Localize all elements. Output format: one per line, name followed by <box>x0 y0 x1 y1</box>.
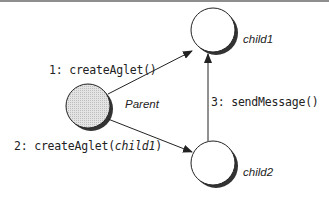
diagram-canvas: Parent child1 child2 1: createAglet() 2:… <box>0 0 329 202</box>
edge-label-1-suffix: ) <box>150 63 157 77</box>
node-label-parent: Parent <box>125 98 159 110</box>
edge-label-2-suffix: ) <box>155 139 162 153</box>
edge-label-3-suffix: ) <box>312 95 319 109</box>
node-label-child2: child2 <box>243 166 273 178</box>
edge-label-1: 1: createAglet() <box>49 63 157 77</box>
child1-circle <box>191 8 235 52</box>
edge-label-3: 3: sendMessage() <box>211 95 319 109</box>
edge-label-2-arg: child1 <box>115 139 155 153</box>
edge-label-3-prefix: 3: sendMessage( <box>211 95 312 109</box>
node-parent <box>66 84 113 131</box>
node-label-child1: child1 <box>243 33 273 45</box>
node-child1 <box>191 8 238 55</box>
edge-label-2: 2: createAglet(child1) <box>14 139 162 153</box>
edge-label-1-prefix: 1: createAglet( <box>49 63 150 77</box>
edge-label-2-prefix: 2: createAglet( <box>14 139 115 153</box>
node-child2 <box>191 141 238 188</box>
child2-circle <box>191 141 235 185</box>
parent-circle <box>66 84 110 128</box>
